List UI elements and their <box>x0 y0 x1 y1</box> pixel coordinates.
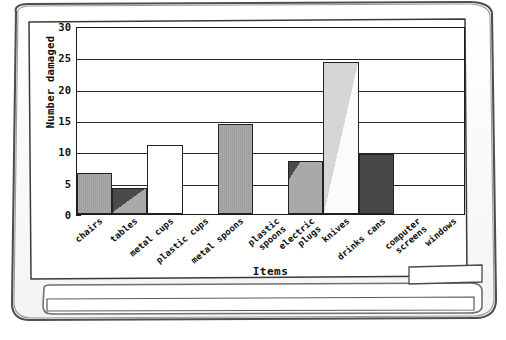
y-tick-label: 30 <box>43 22 71 33</box>
y-tick-label: 15 <box>43 116 71 127</box>
x-tick-label-text: chairs <box>73 216 105 245</box>
y-axis-tick-labels: 051015202530 <box>37 27 71 215</box>
x-tick-label-text: tables <box>108 216 140 245</box>
bar-slot <box>147 28 182 214</box>
bar-slot <box>323 28 358 214</box>
x-tick-label-text: computerscreens <box>383 216 430 260</box>
bar-slot <box>429 28 464 214</box>
y-tick-label: 10 <box>43 147 71 158</box>
bar-slot <box>77 28 112 214</box>
chart-panel: Frequency of damage Number damaged 05101… <box>29 20 466 278</box>
y-tick-label: 0 <box>43 210 71 221</box>
bar-slot <box>359 28 394 214</box>
y-tick-label: 20 <box>43 85 71 96</box>
x-axis-title: Items <box>76 265 465 278</box>
y-tick-label: 25 <box>43 53 71 64</box>
bar-slot <box>112 28 147 214</box>
bar-slot <box>288 28 323 214</box>
plot-area <box>76 27 465 215</box>
y-tick-label: 5 <box>43 179 71 190</box>
screenshot-stage: Frequency of damage Number damaged 05101… <box>0 0 506 340</box>
bar-series <box>77 28 464 214</box>
